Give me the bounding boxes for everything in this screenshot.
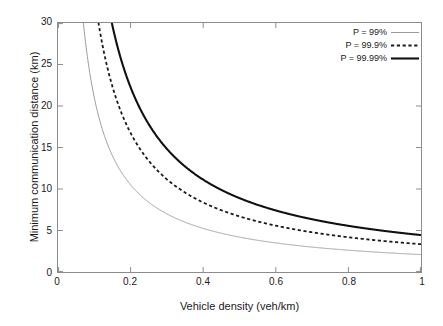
y-tick-label: 0 bbox=[8, 268, 52, 278]
legend-label: P = 99.99% bbox=[340, 54, 387, 63]
legend-line-sample bbox=[391, 54, 419, 63]
y-tick-label: 30 bbox=[8, 17, 52, 27]
legend-line-sample bbox=[391, 28, 419, 37]
y-axis-title: Minimum communication distance (km) bbox=[28, 27, 40, 267]
legend-item: P = 99% bbox=[332, 26, 419, 39]
x-tick-label: 0.2 bbox=[123, 277, 137, 287]
legend-line-sample bbox=[391, 41, 419, 50]
x-tick-label: 0.8 bbox=[342, 277, 356, 287]
chart-figure: 051015202530 00.20.40.60.81 Vehicle dens… bbox=[0, 0, 443, 326]
x-tick-label: 0 bbox=[54, 277, 60, 287]
legend-item: P = 99.9% bbox=[332, 39, 419, 52]
x-tick-label: 0.6 bbox=[269, 277, 283, 287]
x-tick-label: 0.4 bbox=[196, 277, 210, 287]
x-tick-label: 1 bbox=[419, 277, 425, 287]
y-axis-tick-labels: 051015202530 bbox=[0, 0, 52, 326]
legend-label: P = 99.9% bbox=[345, 41, 387, 50]
legend-label: P = 99% bbox=[353, 28, 387, 37]
x-axis-title: Vehicle density (veh/km) bbox=[57, 300, 422, 312]
legend: P = 99%P = 99.9%P = 99.99% bbox=[330, 23, 421, 69]
legend-item: P = 99.99% bbox=[332, 52, 419, 65]
